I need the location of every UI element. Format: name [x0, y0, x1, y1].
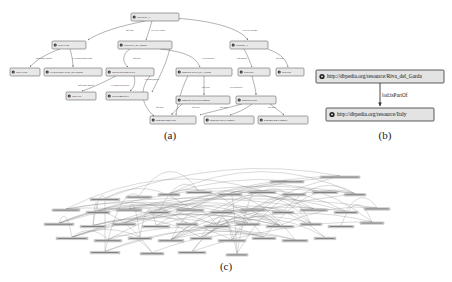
panel-b-node-label: http://dbpedia.org/resource/Italy [337, 111, 407, 117]
panel-c-edge [129, 204, 280, 225]
panel-a-node[interactable]: lod:City [66, 92, 96, 100]
panel-b-node[interactable]: http://dbpedia.org/resource/Riva_del_Gar… [316, 70, 444, 83]
panel-c-node[interactable] [282, 194, 306, 196]
panel-a-node-label: ex:describeEvent_08112008 [50, 70, 83, 74]
panel-a-edge-label: ex:locatedIn [230, 86, 243, 89]
panel-c-node[interactable] [158, 194, 180, 196]
panel-a-node[interactable]: lod:Part [276, 68, 304, 76]
panel-c-node[interactable] [94, 240, 122, 242]
panel-c-node[interactable] [158, 240, 184, 242]
panel-c-node[interactable] [80, 225, 106, 227]
panel-a-svg: lod:Serie_1lod:Eventlod:Riva_del_gardalo… [0, 0, 310, 128]
panel-b-node[interactable]: http://dbpedia.org/resource/Italy [326, 108, 434, 121]
panel-a-node[interactable]: lod:Event [10, 68, 40, 76]
panel-c-node[interactable] [126, 196, 152, 198]
panel-c-node[interactable] [148, 211, 170, 213]
panel-c-node[interactable] [210, 211, 234, 213]
panel-c-node[interactable] [314, 237, 336, 239]
panel-c-node[interactable] [90, 198, 120, 200]
panel-a-node[interactable]: lod:part_1 [230, 41, 268, 49]
panel-b-svg: lod:isPartOf http://dbpedia.org/resource… [310, 58, 452, 128]
panel-a-node[interactable]: lod:Serie_1 [131, 13, 179, 21]
panel-c-node[interactable] [312, 191, 338, 193]
panel-a-edge-label: ex:corporationClass [72, 57, 92, 60]
panel-c-edge [59, 204, 190, 223]
panel-c-node[interactable] [204, 225, 230, 227]
panel-c-node[interactable] [328, 225, 354, 227]
panel-c-node[interactable] [300, 209, 328, 211]
panel-c-node[interactable] [360, 222, 384, 224]
panel-a-edge-label: ex:locatedIn [202, 57, 215, 60]
panel-c-edge [169, 172, 355, 194]
panel-a-node-label: lod:Event [58, 43, 69, 47]
panel-a-node-label: lod:part_1 [236, 43, 248, 47]
panel-c-node[interactable] [90, 251, 120, 253]
panel-a-node[interactable]: lod:Riva_del_garda [118, 41, 172, 49]
panel-c-node[interactable] [248, 191, 276, 193]
panel-c-node[interactable] [236, 223, 260, 225]
panel-c-node[interactable] [112, 223, 136, 225]
panel-c-edge [152, 234, 295, 253]
panel-a-node-label: lod:Serie_1 [137, 15, 151, 19]
panel-c-node[interactable] [364, 208, 390, 210]
panel-c-node[interactable] [270, 181, 304, 183]
panel-c-node[interactable] [300, 223, 322, 225]
panel-a-node-label: schema.org:Country [264, 118, 288, 122]
caption-c: (c) [196, 260, 256, 272]
panel-a-node-label: dbpedia:Italy [242, 98, 258, 102]
panel-a-node[interactable]: lod:Event [52, 41, 86, 49]
panel-c-node[interactable] [272, 211, 294, 213]
panel-c-node[interactable] [52, 209, 80, 211]
panel-c-nodes [44, 176, 390, 256]
panel-c-node[interactable] [218, 240, 246, 242]
panel-c-node[interactable] [116, 209, 142, 211]
panel-c-node[interactable] [266, 225, 294, 227]
panel-a-node-label: lod:City [72, 94, 82, 98]
panel-a-node[interactable]: dbpedia-owl:Country [204, 116, 254, 124]
panel-c-node[interactable] [128, 237, 152, 239]
panel-a-node-label: lod:Italy [244, 70, 254, 74]
panel-a-edge-label: rdfs:subClassOf [78, 84, 94, 87]
panel-a-edge-label: rdf:type [220, 106, 229, 109]
panel-c-node[interactable] [44, 223, 74, 225]
panel-a-node[interactable]: ex:describeEvent_08112008 [44, 68, 102, 76]
panel-c-node[interactable] [86, 211, 110, 213]
panel-a-node-label: lod:ResearchGrCity [112, 70, 136, 74]
panel-c-node[interactable] [176, 209, 204, 211]
panel-c-edge [171, 191, 262, 239]
panel-a-node[interactable]: lod:Italy [238, 68, 270, 76]
panel-a-node-label: dbpedia-owl:Settlement [182, 98, 210, 102]
panel-c-node[interactable] [252, 237, 276, 239]
panel-c-node[interactable] [140, 253, 164, 255]
panel-c-node[interactable] [56, 237, 88, 239]
panel-c-node[interactable] [190, 237, 212, 239]
panel-c-node[interactable] [320, 176, 360, 178]
panel-a-node[interactable]: dbpedia:Italy [236, 96, 276, 104]
panel-a-edge-label: rdf:type [133, 57, 142, 60]
panel-c-node[interactable] [142, 225, 170, 227]
panel-c-node[interactable] [240, 209, 266, 211]
panel-c-node[interactable] [218, 194, 242, 196]
panel-a-node-label: lod:Event [16, 70, 27, 74]
panel-b-edge-label: lod:isPartOf [382, 92, 408, 98]
panel-a-node[interactable]: lod:ItemsOf03 [106, 92, 148, 100]
panel-c-node[interactable] [334, 211, 358, 213]
panel-c-node[interactable] [226, 254, 248, 256]
panel-a-node[interactable]: lod:ResearchGrCity [106, 68, 154, 76]
panel-a-edge-label: rdf:type [202, 86, 211, 89]
panel-c-svg [30, 150, 430, 262]
panel-c-node[interactable] [176, 223, 198, 225]
panel-a-node[interactable]: dbpedia:Riva_del_Garda [176, 68, 232, 76]
panel-c-node[interactable] [186, 191, 212, 193]
panel-c-node[interactable] [282, 240, 308, 242]
panel-a-edge-label: lod:partOf [237, 57, 248, 60]
panel-a-node[interactable]: schema.org:Country [258, 116, 308, 124]
panel-a-node[interactable]: dbpedia-owl:Settlement [176, 96, 230, 104]
panel-c-node[interactable] [344, 194, 366, 196]
panel-c-node[interactable] [178, 251, 206, 253]
panel-a-node-label: dbpedia:Riva_del_Garda [182, 70, 212, 74]
panel-a-node-label: dbpedia-owl:Country [210, 118, 235, 122]
panel-a-node[interactable]: schema.org:Place [150, 116, 196, 124]
caption-b: (b) [355, 129, 415, 141]
panel-a-node-label: lod:Riva_del_garda [124, 43, 148, 47]
